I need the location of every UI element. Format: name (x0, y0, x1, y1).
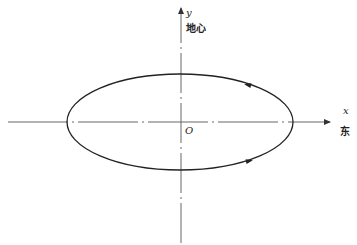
y-axis-label: y (185, 7, 192, 18)
origin-label: O (185, 125, 193, 136)
x-axis-label: x (343, 105, 349, 116)
x-direction-label: 东 (340, 125, 350, 137)
orbit-diagram: y 地心 x 东 O (0, 0, 357, 245)
y-direction-label: 地心 (186, 22, 206, 34)
